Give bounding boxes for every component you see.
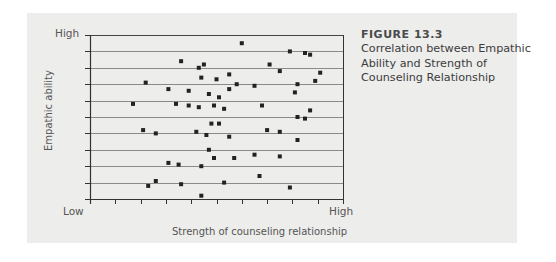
data-point [308,53,312,57]
data-point [154,179,158,183]
data-point [199,76,203,80]
figure-caption: FIGURE 13.3 Correlation between Empathic… [361,28,541,86]
data-point [303,117,307,121]
data-point [278,130,282,134]
data-point [293,90,297,94]
x-axis-high-label: High [329,205,353,217]
data-point [227,72,231,76]
data-point [202,63,206,67]
data-point [288,49,292,53]
data-point [258,174,262,178]
data-point [278,69,282,73]
data-point [227,135,231,139]
data-point [235,82,239,86]
data-point [199,164,203,168]
data-point [278,154,282,158]
data-point [296,82,300,86]
caption-line-1: Correlation between Empathic [361,42,541,57]
data-point [227,87,231,91]
data-point [141,128,145,132]
data-point [268,63,272,67]
data-point [265,128,269,132]
data-point [154,131,158,135]
data-point [253,84,257,88]
y-axis-title: Empathic ability [43,61,54,161]
data-point [187,104,191,108]
data-point [296,138,300,142]
y-axis-low-label: Low [63,205,84,217]
data-point [303,51,307,55]
data-point [215,77,219,81]
caption-line-3: Counseling Relationship [361,71,541,86]
data-point [197,105,201,109]
data-point [131,102,135,106]
data-point [313,79,317,83]
figure-number: FIGURE 13.3 [361,28,541,42]
data-point [199,194,203,198]
data-point [179,59,183,63]
x-axis-title: Strength of counseling relationship [172,226,347,237]
data-point [232,156,236,160]
gridlines [90,36,343,184]
data-point [212,104,216,108]
data-point [179,182,183,186]
caption-line-2: Ability and Strength of [361,57,541,72]
data-point [217,122,221,126]
data-point [197,66,201,70]
data-point [146,184,150,188]
data-point [308,108,312,112]
data-point [194,130,198,134]
data-point [177,163,181,167]
y-axis-high-label: High [55,27,79,39]
data-point [217,95,221,99]
data-point [166,161,170,165]
data-point [144,81,148,85]
data-points [131,41,322,198]
data-point [318,71,322,75]
data-point [260,104,264,108]
data-point [253,153,257,157]
data-point [207,92,211,96]
data-point [166,87,170,91]
data-point [212,156,216,160]
data-point [187,89,191,93]
data-point [240,41,244,45]
data-point [222,181,226,185]
data-point [296,115,300,119]
data-point [288,186,292,190]
data-point [204,133,208,137]
data-point [209,122,213,126]
data-point [207,148,211,152]
data-point [174,102,178,106]
data-point [222,107,226,111]
